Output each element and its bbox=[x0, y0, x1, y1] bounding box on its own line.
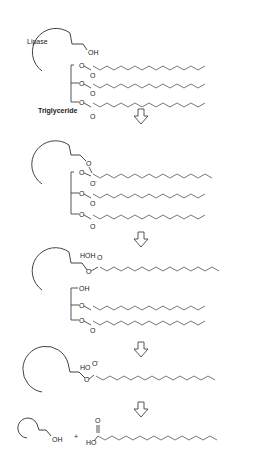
enzyme-oxygen: O bbox=[84, 376, 90, 383]
hydroxyl-label: OH bbox=[79, 285, 90, 292]
negative-charge: - bbox=[97, 358, 99, 364]
carbonyl-oxygen: O bbox=[90, 90, 96, 97]
ester-oxygen: O bbox=[79, 211, 85, 218]
fatty-acid-chain bbox=[96, 376, 215, 380]
reaction-diagram: Lipase OH O O O O O O Triglyceride O O O… bbox=[0, 0, 270, 456]
triglyceride-label: Triglyceride bbox=[38, 107, 77, 115]
fatty-acid-chain bbox=[100, 267, 219, 271]
hydroxyl-label: OH bbox=[88, 49, 99, 56]
stage-1: Lipase OH O O O O O O Triglyceride bbox=[27, 28, 205, 120]
lipase-enzyme-shape bbox=[32, 248, 87, 290]
fatty-acid-product-chain bbox=[98, 436, 217, 440]
plus-sign: + bbox=[74, 433, 78, 440]
hydroxyl-label: OH bbox=[52, 436, 63, 443]
fatty-acid-chain bbox=[93, 84, 205, 88]
fatty-acid-chain bbox=[93, 321, 205, 325]
ester-oxygen: O bbox=[79, 317, 85, 324]
acid-hydroxyl-label: HO bbox=[86, 439, 97, 446]
carbonyl-oxygen: O bbox=[90, 223, 96, 230]
ester-oxygen: O bbox=[79, 99, 85, 106]
ester-oxygen: O bbox=[79, 169, 85, 176]
stage-5-products: OH + HO O bbox=[18, 417, 217, 446]
ester-oxygen: O bbox=[79, 190, 85, 197]
down-arrow-icon bbox=[134, 342, 148, 357]
stage-2: O O O - O O O O bbox=[32, 141, 212, 230]
down-arrow-icon bbox=[134, 232, 148, 247]
ester-oxygen: O bbox=[79, 80, 85, 87]
stage-3: O O HOH OH O O O bbox=[32, 248, 219, 334]
free-lipase-shape bbox=[18, 418, 51, 438]
down-arrow-icon bbox=[134, 109, 148, 124]
carbonyl-oxygen: O bbox=[90, 72, 96, 79]
enzyme-ester-oxygen: O bbox=[86, 268, 92, 275]
hydroxyl-label: HO bbox=[80, 364, 91, 371]
fatty-acid-chain bbox=[93, 306, 205, 310]
carbonyl-oxygen: O bbox=[95, 417, 101, 424]
lipase-enzyme-shape bbox=[23, 346, 85, 392]
down-arrow-icon bbox=[134, 402, 148, 417]
carbonyl-oxygen: O bbox=[90, 113, 96, 120]
glycerol-backbone bbox=[71, 288, 79, 320]
ester-oxygen: O bbox=[79, 62, 85, 69]
fatty-acid-chain bbox=[93, 215, 205, 219]
carbonyl-oxygen: O bbox=[97, 254, 103, 261]
ester-oxygen: O bbox=[79, 302, 85, 309]
negative-charge: - bbox=[95, 178, 97, 184]
glycerol-backbone bbox=[71, 172, 79, 214]
fatty-acid-chain bbox=[93, 194, 205, 198]
glycerol-backbone bbox=[71, 65, 79, 102]
water-label: HOH bbox=[80, 252, 96, 259]
fatty-acid-chain bbox=[93, 174, 212, 178]
lipase-enzyme-shape bbox=[32, 141, 86, 184]
carbonyl-oxygen: O bbox=[90, 327, 96, 334]
enzyme-oxygen: O bbox=[86, 160, 92, 167]
stage-4: O HO O - bbox=[23, 346, 215, 392]
carbonyl-oxygen: O bbox=[90, 200, 96, 207]
lipase-label: Lipase bbox=[27, 38, 48, 46]
fatty-acid-chain bbox=[93, 66, 205, 70]
fatty-acid-chain bbox=[93, 103, 205, 107]
